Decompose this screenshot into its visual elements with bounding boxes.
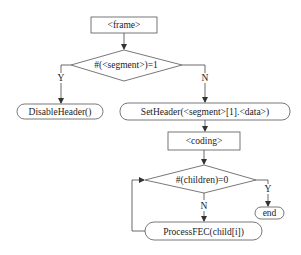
arrow-decision1-yes xyxy=(61,65,71,103)
frame-node: <frame> xyxy=(91,17,157,33)
decision2-no-label: N xyxy=(201,201,208,211)
process-fec-node: ProcessFEC(child[i]) xyxy=(145,222,262,240)
frame-label: <frame> xyxy=(108,20,141,30)
coding-label: <coding> xyxy=(186,136,223,146)
set-header-node: SetHeader(<segment>[1].<data>) xyxy=(120,103,290,120)
coding-node: <coding> xyxy=(168,132,240,150)
decision1-node: #(<segment>)=1 xyxy=(71,50,182,81)
disable-header-label: DisableHeader() xyxy=(29,107,92,118)
set-header-label: SetHeader(<segment>[1].<data>) xyxy=(141,107,269,118)
end-node: end xyxy=(255,207,284,219)
flowchart: <frame> #(<segment>)=1 Y DisableHeader()… xyxy=(0,0,301,255)
arrow-loop-back xyxy=(132,180,145,231)
disable-header-node: DisableHeader() xyxy=(17,104,103,119)
arrow-decision1-no xyxy=(182,65,205,102)
end-label: end xyxy=(263,208,277,218)
decision1-label: #(<segment>)=1 xyxy=(94,60,158,71)
decision2-label: #(children)=0 xyxy=(176,175,229,186)
decision1-no-label: N xyxy=(202,73,209,83)
decision1-yes-label: Y xyxy=(58,73,65,83)
decision2-node: #(children)=0 xyxy=(145,165,256,193)
decision2-yes-label: Y xyxy=(265,184,272,194)
process-fec-label: ProcessFEC(child[i]) xyxy=(163,227,244,238)
